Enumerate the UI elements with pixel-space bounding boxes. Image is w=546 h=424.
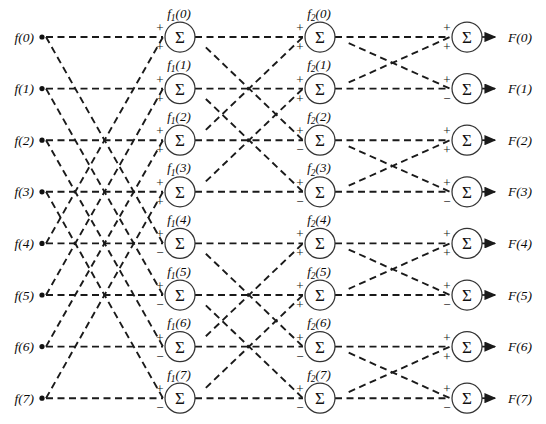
- edge-cross-s2-n7: [206, 305, 303, 398]
- sum-node-stage-3-4[interactable]: Σ: [452, 228, 482, 258]
- output-label-7: F(7): [507, 391, 532, 406]
- sum-node-stage-2-5[interactable]: Σ: [305, 280, 335, 310]
- sum-node-stage-1-3[interactable]: Σ: [165, 177, 195, 207]
- sign-bottom-stage-3-4: +: [443, 245, 450, 260]
- sum-node-stage-1-1[interactable]: Σ: [165, 74, 195, 104]
- sign-top-stage-2-5: +: [296, 278, 303, 293]
- edge-cross-s3-n6: [349, 347, 450, 392]
- sum-node-stage-3-0[interactable]: Σ: [452, 22, 482, 52]
- sum-node-stage-3-7[interactable]: Σ: [452, 383, 482, 413]
- sum-node-stage-1-6[interactable]: Σ: [165, 332, 195, 362]
- sum-node-stage-1-0[interactable]: Σ: [165, 22, 195, 52]
- sum-node-stage-3-6[interactable]: Σ: [452, 332, 482, 362]
- sigma-icon: Σ: [175, 389, 185, 408]
- input-label-4: f(4): [15, 236, 35, 251]
- signal-flow-diagram: ΣΣΣΣΣΣΣΣΣΣΣΣΣΣΣΣΣΣΣΣΣΣΣΣ f(0)f(1)f(2)f(3…: [0, 0, 546, 424]
- edge-cross-s2-n0: [206, 37, 303, 130]
- sum-node-stage-2-3[interactable]: Σ: [305, 177, 335, 207]
- sign-top-stage-3-4: +: [443, 226, 450, 241]
- sigma-icon: Σ: [175, 286, 185, 305]
- sum-node-stage-2-2[interactable]: Σ: [305, 125, 335, 155]
- sign-top-stage-1-0: +: [156, 20, 163, 35]
- sigma-icon: Σ: [175, 28, 185, 47]
- sign-bottom-stage-2-1: +: [296, 91, 303, 106]
- sum-node-stage-1-2[interactable]: Σ: [165, 125, 195, 155]
- sign-top-stage-3-2: +: [443, 123, 450, 138]
- sigma-icon: Σ: [315, 234, 325, 253]
- input-label-2: f(2): [15, 133, 35, 148]
- edge-cross-s2-n3: [206, 99, 303, 192]
- sign-bottom-stage-2-5: +: [296, 297, 303, 312]
- sigma-icon: Σ: [175, 80, 185, 99]
- sign-top-stage-3-0: +: [443, 20, 450, 35]
- output-label-0: F(0): [507, 30, 532, 45]
- input-node-dot-6[interactable]: [39, 344, 44, 349]
- sum-node-stage-2-1[interactable]: Σ: [305, 74, 335, 104]
- node-label-stage-1-0: f1(0): [167, 6, 191, 23]
- input-node-dot-3[interactable]: [39, 189, 44, 194]
- sum-node-stage-1-5[interactable]: Σ: [165, 280, 195, 310]
- sum-node-stage-2-0[interactable]: Σ: [305, 22, 335, 52]
- input-label-3: f(3): [15, 184, 35, 199]
- sigma-icon: Σ: [462, 80, 472, 99]
- sign-bottom-stage-1-1: +: [156, 91, 163, 106]
- input-node-dot-5[interactable]: [39, 292, 44, 297]
- input-node-dot-2[interactable]: [39, 138, 44, 143]
- sign-bottom-stage-3-6: +: [443, 349, 450, 364]
- sign-bottom-stage-1-5: −: [156, 297, 163, 312]
- sign-bottom-stage-3-3: −: [443, 194, 450, 209]
- sign-bottom-stage-3-7: −: [443, 400, 450, 415]
- sign-top-stage-3-6: +: [443, 330, 450, 345]
- edge-cross-s3-n0: [349, 37, 450, 82]
- sign-top-stage-3-7: +: [443, 381, 450, 396]
- node-label-stage-1-4: f1(4): [167, 212, 191, 229]
- sum-node-stage-1-7[interactable]: Σ: [165, 383, 195, 413]
- input-label-1: f(1): [15, 81, 35, 96]
- node-label-stage-1-6: f1(6): [167, 315, 191, 332]
- sum-node-stage-3-2[interactable]: Σ: [452, 125, 482, 155]
- sign-top-stage-1-7: +: [156, 381, 163, 396]
- sigma-icon: Σ: [175, 338, 185, 357]
- node-label-stage-2-3: f2(3): [307, 160, 331, 177]
- sigma-icon: Σ: [175, 183, 185, 202]
- node-label-stage-2-0: f2(0): [307, 6, 331, 23]
- input-node-dot-7[interactable]: [39, 396, 44, 401]
- sign-top-stage-2-0: +: [296, 20, 303, 35]
- sign-top-stage-1-6: +: [156, 330, 163, 345]
- sign-bottom-stage-2-0: +: [296, 39, 303, 54]
- output-label-3: F(3): [507, 184, 532, 199]
- input-node-dot-4[interactable]: [39, 241, 44, 246]
- sign-bottom-stage-2-6: −: [296, 349, 303, 364]
- sign-top-stage-3-3: +: [443, 175, 450, 190]
- input-label-5: f(5): [15, 288, 35, 303]
- output-label-5: F(5): [507, 288, 532, 303]
- sign-top-stage-2-4: +: [296, 226, 303, 241]
- sum-node-stage-2-6[interactable]: Σ: [305, 332, 335, 362]
- edge-layer: [46, 37, 495, 398]
- sigma-icon: Σ: [315, 183, 325, 202]
- input-node-dot-0[interactable]: [39, 34, 44, 39]
- edge-cross-s2-n4: [206, 243, 303, 336]
- sign-bottom-stage-2-2: −: [296, 142, 303, 157]
- sum-node-stage-3-1[interactable]: Σ: [452, 74, 482, 104]
- node-label-stage-1-1: f1(1): [167, 57, 191, 74]
- sigma-icon: Σ: [315, 338, 325, 357]
- sum-node-stage-1-4[interactable]: Σ: [165, 228, 195, 258]
- sigma-icon: Σ: [462, 389, 472, 408]
- sigma-icon: Σ: [175, 131, 185, 150]
- sign-bottom-stage-2-4: +: [296, 245, 303, 260]
- input-node-dot-1[interactable]: [39, 86, 44, 91]
- sign-top-stage-2-2: +: [296, 123, 303, 138]
- sigma-icon: Σ: [462, 338, 472, 357]
- sum-node-stage-2-4[interactable]: Σ: [305, 228, 335, 258]
- sign-bottom-stage-1-3: +: [156, 194, 163, 209]
- edge-cross-s2-n6: [206, 254, 303, 347]
- sigma-icon: Σ: [462, 131, 472, 150]
- edge-cross-s3-n3: [349, 146, 450, 191]
- node-label-stage-1-2: f1(2): [167, 109, 191, 126]
- sum-node-stage-3-3[interactable]: Σ: [452, 177, 482, 207]
- sum-node-stage-3-5[interactable]: Σ: [452, 280, 482, 310]
- sign-bottom-stage-3-1: −: [443, 91, 450, 106]
- sum-node-stage-2-7[interactable]: Σ: [305, 383, 335, 413]
- output-label-6: F(6): [507, 339, 532, 354]
